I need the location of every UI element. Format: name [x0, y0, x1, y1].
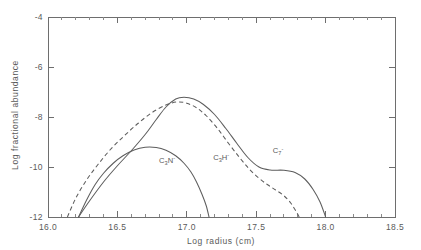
series-annotations-layer: C7-C3H-C3N-	[159, 146, 283, 166]
abundance-plot: 16.016.517.017.518.018.5-4-6-8-10-12 C7-…	[0, 0, 421, 250]
axes-layer: 16.016.517.017.518.018.5-4-6-8-10-12	[30, 12, 405, 232]
y-tick-label: -8	[35, 112, 43, 122]
y-tick-label: -4	[35, 12, 43, 22]
series-label-text-C7-: C7-	[273, 146, 284, 157]
series-label-text-C3H-: C3H-	[213, 152, 229, 163]
y-tick-label: -10	[30, 162, 44, 172]
curves-layer	[67, 97, 325, 217]
series-label-C3N-: C3N-	[159, 155, 175, 166]
x-tick-label: 17.0	[178, 222, 196, 232]
x-tick-label: 17.5	[247, 222, 265, 232]
series-label-C7-: C7-	[273, 146, 284, 157]
x-tick-label: 18.5	[386, 222, 404, 232]
x-tick-label: 18.0	[317, 222, 335, 232]
series-label-C3H-: C3H-	[213, 152, 229, 163]
x-tick-label: 16.0	[39, 222, 57, 232]
series-curve-C3N-	[79, 147, 209, 217]
y-tick-label: -6	[35, 62, 43, 72]
y-axis-title: Log fractional abundance	[10, 60, 20, 170]
chart-figure: 16.016.517.017.518.018.5-4-6-8-10-12 C7-…	[0, 0, 421, 250]
series-curve-C3H-	[67, 102, 299, 217]
x-tick-label: 16.5	[108, 222, 126, 232]
y-tick-label: -12	[30, 212, 44, 222]
x-axis-title: Log radius (cm)	[187, 236, 255, 246]
series-curve-C7-	[79, 97, 326, 217]
series-label-text-C3N-: C3N-	[159, 155, 175, 166]
